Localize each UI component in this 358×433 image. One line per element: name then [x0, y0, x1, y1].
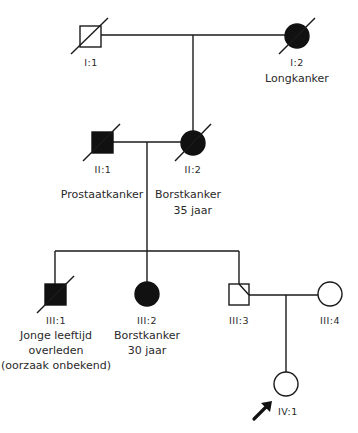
condition-label-line-3: (oorzaak onbekend): [1, 359, 111, 372]
individual-III-2: III:2 Borstkanker 30 jaar: [114, 282, 180, 357]
individual-id: I:1: [84, 57, 98, 68]
individual-id: II:2: [185, 164, 202, 175]
proband-arrow-icon: [254, 401, 272, 419]
condition-label: Prostaatkanker: [61, 188, 144, 201]
individual-III-3: III:3: [229, 284, 249, 326]
individual-III-4: III:4: [318, 282, 342, 326]
age-label: 35 jaar: [173, 204, 212, 217]
individual-II-2: II:2 Borstkanker 35 jaar: [155, 124, 221, 217]
male-affected-symbol: [92, 132, 113, 153]
male-unaffected-symbol: [80, 26, 101, 47]
couple-line-gen-3: [249, 295, 318, 372]
individual-IV-1: IV:1: [254, 372, 298, 419]
individual-I-1: I:1: [71, 18, 108, 68]
individual-id: III:4: [320, 315, 340, 326]
condition-label: Borstkanker: [155, 188, 221, 201]
female-unaffected-symbol: [318, 282, 342, 306]
individual-III-1: III:1 Jonge leeftijd overleden (oorzaak …: [1, 276, 111, 372]
female-affected-symbol: [135, 282, 159, 306]
individual-id: III:1: [46, 315, 66, 326]
couple-line-gen-1: [101, 35, 285, 131]
female-unaffected-symbol: [274, 372, 298, 396]
condition-label: Longkanker: [265, 72, 329, 85]
age-label: 30 jaar: [128, 344, 167, 357]
individual-id: II:1: [95, 164, 112, 175]
individual-id: III:2: [137, 315, 157, 326]
condition-label-line-1: Jonge leeftijd: [19, 329, 92, 342]
individual-I-2: I:2 Longkanker: [265, 18, 329, 85]
individual-id: I:2: [290, 57, 304, 68]
individual-II-1: II:1 Prostaatkanker: [61, 124, 144, 201]
individual-id: IV:1: [278, 406, 298, 417]
pedigree-chart: I:1 I:2 Longkanker II:1 Prostaatkanker I…: [0, 0, 358, 433]
condition-label: Borstkanker: [114, 329, 180, 342]
sibship-line-gen-3: [55, 251, 239, 284]
male-unaffected-symbol: [229, 284, 249, 305]
condition-label-line-2: overleden: [28, 344, 83, 357]
deceased-slash-icon: [71, 18, 108, 54]
individual-id: III:3: [229, 315, 249, 326]
